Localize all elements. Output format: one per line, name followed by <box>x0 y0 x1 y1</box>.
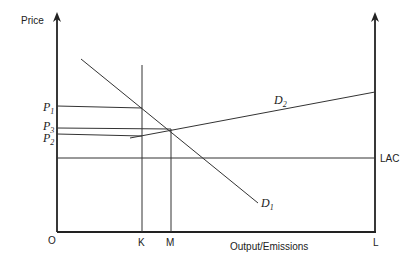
p3-line <box>57 128 171 129</box>
p1-line <box>57 106 142 108</box>
d2-label: D2 <box>273 93 287 109</box>
k-label: K <box>138 237 145 248</box>
d2-curve <box>130 92 375 138</box>
l-label: L <box>373 237 379 248</box>
economics-diagram: Price Output/Emissions O K M L LAC P1 P3… <box>0 0 413 268</box>
origin-label: O <box>48 235 56 246</box>
y-axis-label: Price <box>21 15 44 26</box>
p2-line <box>57 134 142 136</box>
m-label: M <box>166 237 174 248</box>
d1-label: D1 <box>260 196 274 212</box>
p1-label: P1 <box>42 100 54 116</box>
x-axis-label: Output/Emissions <box>230 241 308 252</box>
lac-label: LAC <box>380 153 399 164</box>
